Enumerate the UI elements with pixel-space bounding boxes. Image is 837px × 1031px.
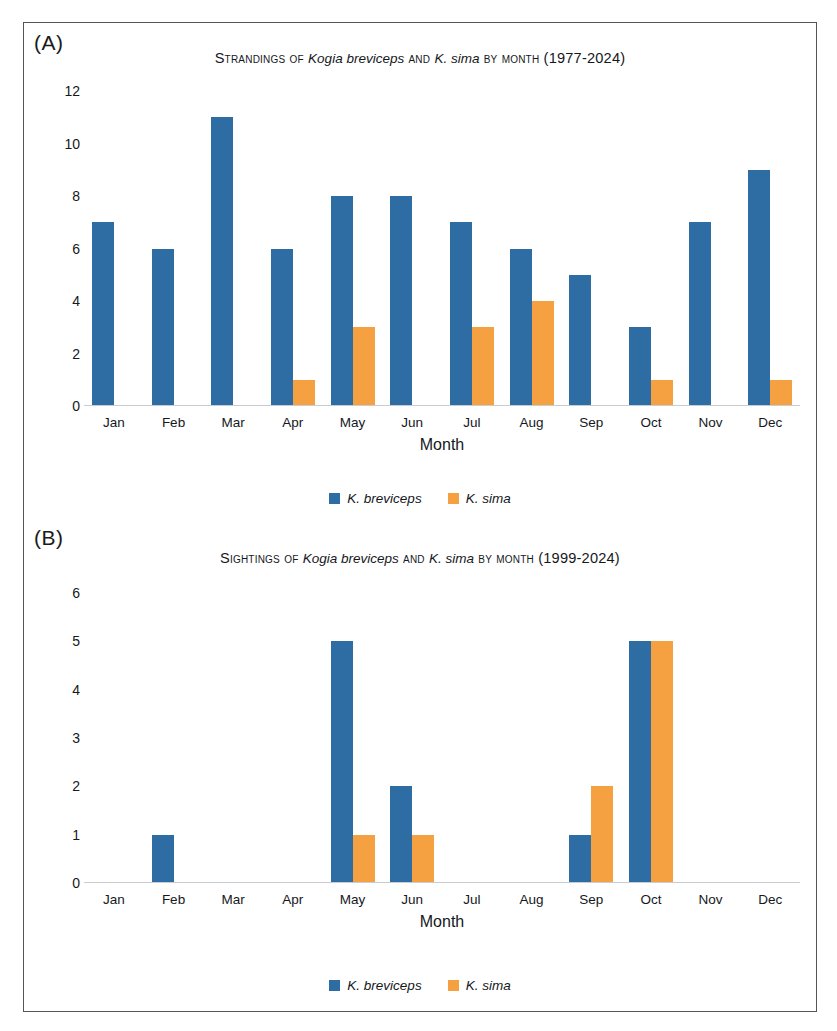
bar-group-jan [84,91,144,406]
bar-may-sima [353,327,375,406]
panel-a-title-prefix: Strandings of [215,50,308,66]
x-axis-tick-jun: Jun [382,406,442,430]
legend-label-sima: K. sima [466,978,511,993]
panel-a-plot-area: 121086420 JanFebMarAprMayJunJulAugSepOct… [84,91,800,406]
figure-frame: (A) Strandings of Kogia breviceps and K.… [23,22,817,1012]
x-axis-tick-dec: Dec [740,883,800,907]
y-axis-tick-label: 1 [38,828,80,842]
x-axis-tick-jan: Jan [84,883,144,907]
bar-group-oct [621,91,681,406]
bar-group-aug [502,91,562,406]
panel-b-legend: K. breviceps K. sima [24,978,816,993]
x-axis-tick-jul: Jul [442,883,502,907]
bar-group-feb [144,593,204,883]
bar-may-breviceps [331,196,353,406]
bar-jul-sima [472,327,494,406]
panel-b-title: Sightings of Kogia breviceps and K. sima… [24,550,816,566]
x-axis-tick-oct: Oct [621,883,681,907]
panel-a-title: Strandings of Kogia breviceps and K. sim… [24,50,816,66]
panel-a-bars [84,91,800,406]
x-axis-tick-oct: Oct [621,406,681,430]
bar-oct-breviceps [629,641,651,883]
bar-nov-breviceps [689,222,711,406]
panel-b: (B) Sightings of Kogia breviceps and K. … [24,518,816,1011]
x-axis-tick-aug: Aug [502,883,562,907]
y-axis-tick-label: 2 [38,347,80,361]
x-axis-tick-feb: Feb [144,883,204,907]
bar-sep-breviceps [569,835,591,883]
bar-group-jul [442,91,502,406]
x-axis-tick-dec: Dec [740,406,800,430]
x-axis-tick-mar: Mar [203,883,263,907]
bar-group-nov [681,91,741,406]
y-axis-tick-label: 2 [38,779,80,793]
panel-a-title-taxon-1: Kogia breviceps [308,51,404,66]
legend-item-breviceps: K. breviceps [329,978,421,993]
x-axis-tick-jan: Jan [84,406,144,430]
y-axis-tick-label: 8 [38,189,80,203]
x-axis-tick-feb: Feb [144,406,204,430]
panel-a-title-taxon-2: K. sima [434,51,479,66]
bar-group-sep [561,91,621,406]
y-axis-tick-label: 4 [38,683,80,697]
bar-jun-breviceps [390,196,412,406]
legend-swatch-breviceps-icon [329,493,340,504]
bar-group-jul [442,593,502,883]
bar-feb-breviceps [152,835,174,883]
bar-group-apr [263,91,323,406]
panel-b-title-taxon-1: Kogia breviceps [303,551,399,566]
bar-group-dec [740,91,800,406]
bar-oct-sima [651,641,673,883]
bar-dec-sima [770,380,792,406]
x-axis-tick-mar: Mar [203,406,263,430]
x-axis-tick-apr: Apr [263,406,323,430]
x-axis-tick-sep: Sep [561,883,621,907]
legend-item-sima: K. sima [448,978,511,993]
legend-swatch-sima-icon [448,493,459,504]
bar-group-jun [382,91,442,406]
y-axis-tick-label: 4 [38,294,80,308]
panel-a: (A) Strandings of Kogia breviceps and K.… [24,23,816,518]
panel-a-title-mid: and [404,50,434,66]
legend-label-breviceps: K. breviceps [347,491,421,506]
bar-group-mar [203,91,263,406]
y-axis-tick-label: 6 [38,586,80,600]
legend-item-sima: K. sima [448,491,511,506]
bar-aug-sima [532,301,554,406]
y-axis-tick-label: 0 [38,876,80,890]
panel-b-title-prefix: Sightings of [220,550,303,566]
legend-item-breviceps: K. breviceps [329,491,421,506]
x-axis-tick-may: May [323,406,383,430]
legend-swatch-sima-icon [448,980,459,991]
bar-may-sima [353,835,375,883]
bar-group-nov [681,593,741,883]
x-axis-tick-nov: Nov [681,883,741,907]
legend-label-sima: K. sima [466,491,511,506]
bar-group-dec [740,593,800,883]
x-axis-tick-jul: Jul [442,406,502,430]
bar-jun-breviceps [390,786,412,883]
panel-b-y-axis: 6543210 [38,593,80,883]
bar-oct-breviceps [629,327,651,406]
bar-feb-breviceps [152,249,174,407]
x-axis-tick-sep: Sep [561,406,621,430]
panel-a-title-suffix: by month (1977-2024) [479,50,625,66]
bar-group-oct [621,593,681,883]
panel-b-title-mid: and [399,550,429,566]
panel-b-x-axis-label: Month [84,913,800,931]
panel-b-title-taxon-2: K. sima [429,551,474,566]
legend-label-breviceps: K. breviceps [347,978,421,993]
bar-group-apr [263,593,323,883]
bar-may-breviceps [331,641,353,883]
x-axis-tick-jun: Jun [382,883,442,907]
x-axis-tick-may: May [323,883,383,907]
bar-group-mar [203,593,263,883]
y-axis-tick-label: 12 [38,84,80,98]
x-axis-tick-nov: Nov [681,406,741,430]
y-axis-tick-label: 6 [38,242,80,256]
bar-dec-breviceps [748,170,770,406]
bar-oct-sima [651,380,673,406]
bar-group-jan [84,593,144,883]
bar-jun-sima [412,835,434,883]
bar-group-jun [382,593,442,883]
